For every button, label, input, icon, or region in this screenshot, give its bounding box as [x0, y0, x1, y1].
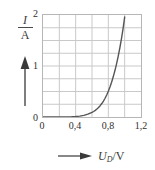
- x-axis-label: UD/V: [58, 148, 124, 164]
- x-axis-label-text: UD/V: [98, 149, 124, 164]
- x-axis-quantity-symbol: U: [98, 149, 107, 163]
- arrow-right-icon: [58, 147, 92, 165]
- y-tick-label-1: 1: [24, 60, 38, 71]
- data-series-diode-curve: [43, 17, 125, 117]
- chart-canvas: [43, 15, 141, 117]
- y-tick-label-2: 2: [24, 8, 38, 19]
- plot-area: [42, 14, 142, 118]
- diode-characteristic-figure: I A 2 1 0: [0, 0, 155, 170]
- x-tick-label-0-4: 0,4: [64, 120, 86, 131]
- x-tick-label-0: 0: [31, 120, 53, 131]
- x-axis-unit-symbol: V: [116, 149, 125, 163]
- x-tick-label-0-8: 0,8: [97, 120, 119, 131]
- y-axis-unit-symbol: A: [14, 28, 36, 41]
- x-tick-label-1-2: 1,2: [130, 120, 152, 131]
